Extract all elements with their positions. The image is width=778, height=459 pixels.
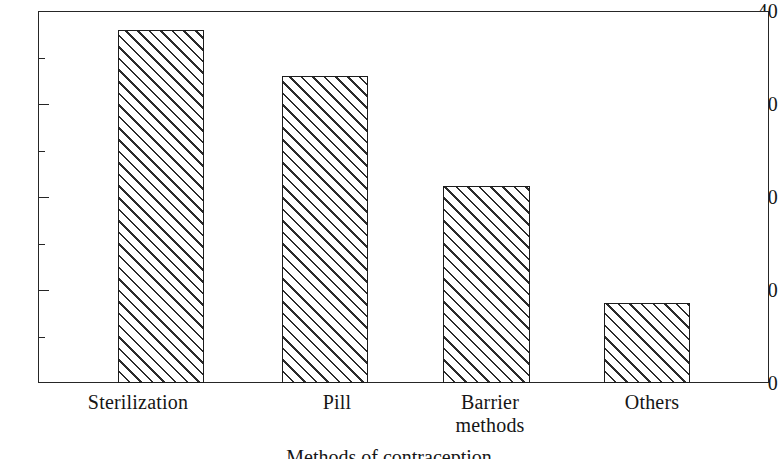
bars-layer xyxy=(38,11,769,383)
bar-others xyxy=(604,303,690,383)
bar-chart-figure: 40 30 20 10 0 Sterilization Pill Barrier… xyxy=(0,0,778,459)
x-label-sterilization: Sterilization xyxy=(38,391,238,414)
bar-pill xyxy=(282,76,368,383)
bar-barrier-methods xyxy=(443,186,530,383)
x-label-others: Others xyxy=(552,391,752,414)
bar-sterilization xyxy=(118,30,204,383)
x-axis-title: Methods of contraception xyxy=(0,446,778,459)
